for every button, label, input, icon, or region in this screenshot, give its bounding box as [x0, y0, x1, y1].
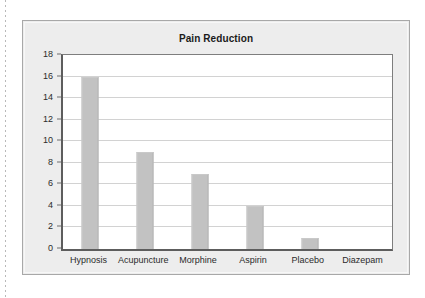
bar: [192, 174, 209, 249]
bar-slot: [282, 55, 337, 249]
bar-slot: [118, 55, 173, 249]
y-tick-label: 10: [43, 135, 53, 145]
x-tick-label: Placebo: [291, 255, 324, 265]
chart-title: Pain Reduction: [23, 33, 409, 44]
x-tick-label: Aspirin: [239, 255, 267, 265]
x-tick-label: Morphine: [179, 255, 217, 265]
x-tick-label: Diazepam: [342, 255, 383, 265]
y-tick-label: 2: [48, 221, 53, 231]
page-margin-rule: [5, 0, 6, 298]
bar: [82, 77, 99, 249]
y-tick-label: 6: [48, 178, 53, 188]
x-axis: HypnosisAcupunctureMorphineAspirinPlaceb…: [61, 255, 393, 273]
bar-slot: [63, 55, 118, 249]
x-tick-label: Hypnosis: [70, 255, 107, 265]
y-tick-label: 16: [43, 71, 53, 81]
y-tick-label: 12: [43, 114, 53, 124]
y-tick-label: 18: [43, 49, 53, 59]
bars-layer: [63, 55, 392, 249]
chart-panel: Pain Reduction 024681012141618 HypnosisA…: [22, 20, 410, 275]
y-axis: 024681012141618: [23, 54, 61, 251]
bar: [246, 206, 263, 249]
bar-slot: [228, 55, 283, 249]
y-tick-label: 14: [43, 92, 53, 102]
bar: [301, 238, 318, 249]
y-tick-label: 4: [48, 200, 53, 210]
y-tick-label: 0: [48, 243, 53, 253]
x-tick-label: Acupuncture: [118, 255, 169, 265]
bar-slot: [337, 55, 392, 249]
plot-area: [61, 54, 393, 251]
bar-slot: [173, 55, 228, 249]
y-tick-label: 8: [48, 157, 53, 167]
bar: [137, 152, 154, 249]
